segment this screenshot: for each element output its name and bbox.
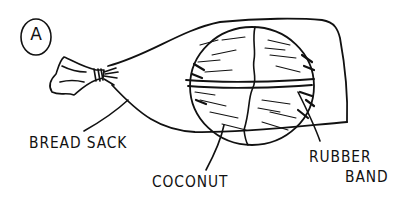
rubber-band [186,79,314,88]
rubber-band-label-line2: BAND [345,169,389,185]
rubber-band-leader [298,92,320,141]
bread-sack-outline [108,19,347,132]
bread-sack-label: BREAD SACK [29,135,127,151]
bread-sack-leader [84,100,128,131]
figure-letter: A [24,24,48,44]
coconut-label: COCONUT [152,174,228,190]
rubber-band-label-line1: RUBBER [309,149,371,165]
bag-knot [50,57,118,95]
